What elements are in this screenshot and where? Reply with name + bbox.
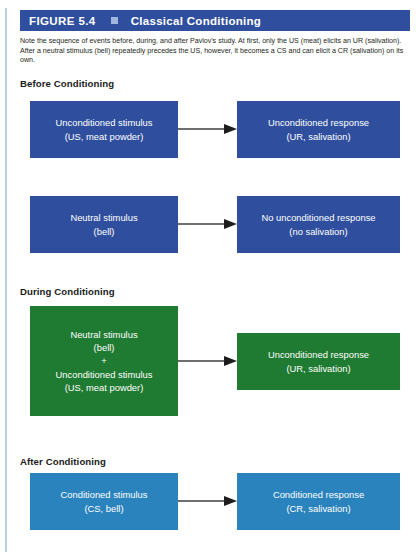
box-no-unconditioned-response: No unconditioned response (no salivation… (237, 196, 400, 253)
box-line-2: (UR, salivation) (286, 130, 350, 143)
box-line-1: Neutral stimulus (70, 211, 137, 224)
left-edge-rule (5, 8, 7, 552)
box-line-2: (UR, salivation) (286, 362, 350, 375)
figure-title: Classical Conditioning (131, 15, 262, 27)
box-line-4: Unconditioned stimulus (56, 368, 153, 381)
box-line-2: (no salivation) (289, 225, 347, 238)
section-heading-after: After Conditioning (20, 456, 106, 467)
arrow-right-icon (178, 218, 238, 230)
box-neutral-plus-unconditioned-stimulus: Neutral stimulus (bell) + Unconditioned … (30, 306, 178, 416)
box-line-2: (CS, bell) (84, 502, 123, 515)
section-heading-before: Before Conditioning (20, 78, 114, 89)
box-line-1: Conditioned stimulus (60, 488, 147, 501)
figure-caption: Note the sequence of events before, duri… (20, 37, 412, 66)
box-line-2: (bell) (94, 225, 115, 238)
section-heading-during: During Conditioning (20, 286, 115, 297)
box-line-plus: + (101, 354, 106, 367)
arrow-right-icon (178, 123, 238, 135)
box-conditioned-response: Conditioned response (CR, salivation) (237, 473, 400, 530)
box-line-1: Unconditioned stimulus (56, 116, 153, 129)
figure-number-label: FIGURE 5.4 (29, 15, 96, 27)
arrow-right-icon (178, 355, 238, 367)
box-line-2: (bell) (94, 341, 115, 354)
box-line-1: Conditioned response (273, 488, 364, 501)
square-bullet-icon (111, 17, 118, 24)
box-line-1: Unconditioned response (268, 116, 369, 129)
arrow-right-icon (178, 495, 238, 507)
box-conditioned-stimulus: Conditioned stimulus (CS, bell) (30, 473, 178, 530)
box-line-2: (CR, salivation) (286, 502, 350, 515)
figure-header-bar: FIGURE 5.4 Classical Conditioning (20, 10, 410, 31)
box-unconditioned-stimulus: Unconditioned stimulus (US, meat powder) (30, 101, 178, 158)
box-unconditioned-response-during: Unconditioned response (UR, salivation) (237, 333, 400, 390)
box-line-2: (US, meat powder) (65, 130, 144, 143)
box-line-1: Neutral stimulus (70, 328, 137, 341)
box-line-1: Unconditioned response (268, 348, 369, 361)
box-unconditioned-response: Unconditioned response (UR, salivation) (237, 101, 400, 158)
box-neutral-stimulus: Neutral stimulus (bell) (30, 196, 178, 253)
box-line-1: No unconditioned response (261, 211, 375, 224)
figure-page: FIGURE 5.4 Classical Conditioning Note t… (0, 0, 420, 560)
box-line-5: (US, meat powder) (65, 381, 144, 394)
